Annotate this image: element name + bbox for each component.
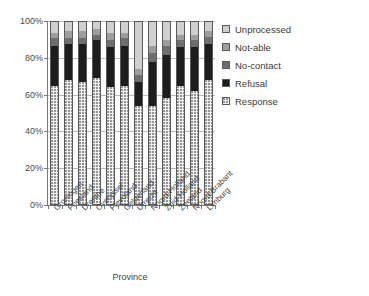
bar-slot — [90, 21, 104, 205]
stacked-bar-chart: 100%80%60%40%20%0% GroningenFrieslandDre… — [0, 0, 369, 296]
stacked-bar[interactable] — [204, 21, 213, 205]
bar-segment-nocontact — [149, 53, 156, 62]
y-axis-tick-label: 40% — [25, 126, 48, 136]
stacked-bar[interactable] — [134, 21, 143, 205]
bar-slot — [104, 21, 118, 205]
stacked-bar[interactable] — [64, 21, 73, 205]
y-axis-tick-label: 60% — [25, 90, 48, 100]
legend-label: Unprocessed — [235, 24, 291, 35]
bar-segment-refusal — [79, 44, 86, 82]
legend-label: Response — [235, 96, 278, 107]
bar-segment-notable — [79, 31, 86, 38]
bar-segment-refusal — [135, 82, 142, 106]
legend-swatch-response — [222, 97, 230, 105]
bar-segment-unprocessed — [177, 22, 184, 35]
bar-segment-refusal — [163, 55, 170, 99]
bar-segment-unprocessed — [79, 22, 86, 31]
bar-segment-refusal — [177, 47, 184, 85]
bar-segment-notable — [149, 46, 156, 53]
legend-item[interactable]: Response — [222, 92, 362, 110]
bar-slot — [62, 21, 76, 205]
bar-segment-unprocessed — [135, 22, 142, 69]
y-axis-tick-label: 100% — [20, 16, 48, 26]
y-axis-tick-label: 80% — [25, 53, 48, 63]
legend-item[interactable]: Not-able — [222, 38, 362, 56]
x-axis-labels: GroningenFrieslandDrentheOverijsselFlevo… — [47, 206, 214, 268]
legend-item[interactable]: No-contact — [222, 56, 362, 74]
bar-segment-unprocessed — [149, 22, 156, 46]
bar-segment-response — [51, 86, 58, 204]
bar-segment-nocontact — [205, 37, 212, 44]
bar-segment-nocontact — [177, 40, 184, 47]
stacked-bar[interactable] — [78, 21, 87, 205]
legend-swatch-unprocessed — [222, 25, 230, 33]
legend-swatch-nocontact — [222, 61, 230, 69]
bar-segment-unprocessed — [51, 22, 58, 33]
bar-slot — [76, 21, 90, 205]
bar-segment-notable — [107, 33, 114, 40]
stacked-bar[interactable] — [92, 21, 101, 205]
chart-legend: UnprocessedNot-ableNo-contactRefusalResp… — [222, 20, 362, 110]
legend-swatch-notable — [222, 43, 230, 51]
bar-segment-nocontact — [191, 40, 198, 47]
legend-label: No-contact — [235, 60, 281, 71]
legend-label: Not-able — [235, 42, 271, 53]
y-axis-tick-label: 0% — [30, 200, 48, 210]
bar-segment-unprocessed — [107, 22, 114, 33]
stacked-bar[interactable] — [162, 21, 171, 205]
bar-segment-unprocessed — [93, 22, 100, 29]
legend-label: Refusal — [235, 78, 267, 89]
bar-segment-refusal — [93, 40, 100, 78]
bar-slot — [159, 21, 173, 205]
stacked-bar[interactable] — [50, 21, 59, 205]
bar-segment-nocontact — [135, 75, 142, 82]
bar-segment-refusal — [205, 44, 212, 80]
bar-segment-nocontact — [121, 38, 128, 45]
bar-segment-refusal — [121, 46, 128, 86]
bar-segment-refusal — [149, 62, 156, 106]
bar-slot — [132, 21, 146, 205]
bar-slot — [201, 21, 215, 205]
y-axis-tick-label: 20% — [25, 163, 48, 173]
legend-item[interactable]: Unprocessed — [222, 20, 362, 38]
bar-segment-refusal — [107, 47, 114, 87]
bar-segment-unprocessed — [65, 22, 72, 31]
bar-slot — [48, 21, 62, 205]
stacked-bar[interactable] — [120, 21, 129, 205]
bar-segment-refusal — [65, 44, 72, 80]
bar-segment-nocontact — [107, 40, 114, 47]
stacked-bar[interactable] — [106, 21, 115, 205]
bar-segment-notable — [65, 31, 72, 38]
legend-swatch-refusal — [222, 79, 230, 87]
bar-segment-nocontact — [51, 38, 58, 45]
legend-item[interactable]: Refusal — [222, 74, 362, 92]
bar-segment-unprocessed — [191, 22, 198, 35]
bar-segment-nocontact — [163, 46, 170, 55]
bar-slot — [118, 21, 132, 205]
bar-segment-unprocessed — [121, 22, 128, 33]
bar-segment-refusal — [191, 47, 198, 91]
bar-slot — [145, 21, 159, 205]
bar-segment-unprocessed — [205, 22, 212, 31]
bar-segment-refusal — [51, 46, 58, 86]
x-axis-title: Province — [0, 272, 260, 282]
bar-segment-unprocessed — [163, 22, 170, 40]
